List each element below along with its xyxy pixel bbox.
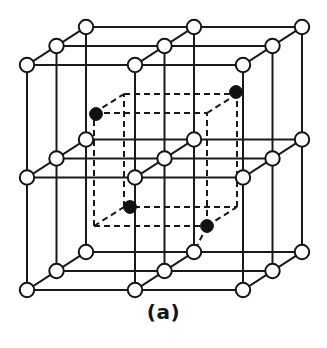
open-atom (49, 39, 63, 53)
figure-root: (a) (0, 0, 327, 348)
open-atom (236, 283, 250, 297)
open-atom (265, 264, 279, 278)
filled-atom (90, 108, 103, 121)
open-atom (236, 170, 250, 184)
figure-caption: (a) (0, 300, 327, 324)
filled-atom (124, 201, 137, 214)
open-atom (187, 20, 201, 34)
open-atom (79, 20, 93, 34)
open-atom (20, 170, 34, 184)
open-atom (79, 132, 93, 146)
open-atom (295, 132, 309, 146)
open-atom (187, 132, 201, 146)
crystal-lattice-diagram (0, 0, 327, 348)
open-atom (20, 58, 34, 72)
filled-atom (230, 86, 243, 99)
open-atom (49, 151, 63, 165)
open-atom (128, 58, 142, 72)
open-atom (187, 245, 201, 259)
filled-atom (201, 220, 214, 233)
open-atom (128, 170, 142, 184)
open-atom (265, 151, 279, 165)
open-atom (236, 58, 250, 72)
dashed-bond (94, 207, 124, 226)
open-atom (265, 39, 279, 53)
open-atom (295, 20, 309, 34)
open-atom (157, 264, 171, 278)
open-atom (295, 245, 309, 259)
open-atom (79, 245, 93, 259)
open-atom (128, 283, 142, 297)
open-atom (49, 264, 63, 278)
open-atom (20, 283, 34, 297)
open-atom (157, 39, 171, 53)
open-atom (157, 151, 171, 165)
